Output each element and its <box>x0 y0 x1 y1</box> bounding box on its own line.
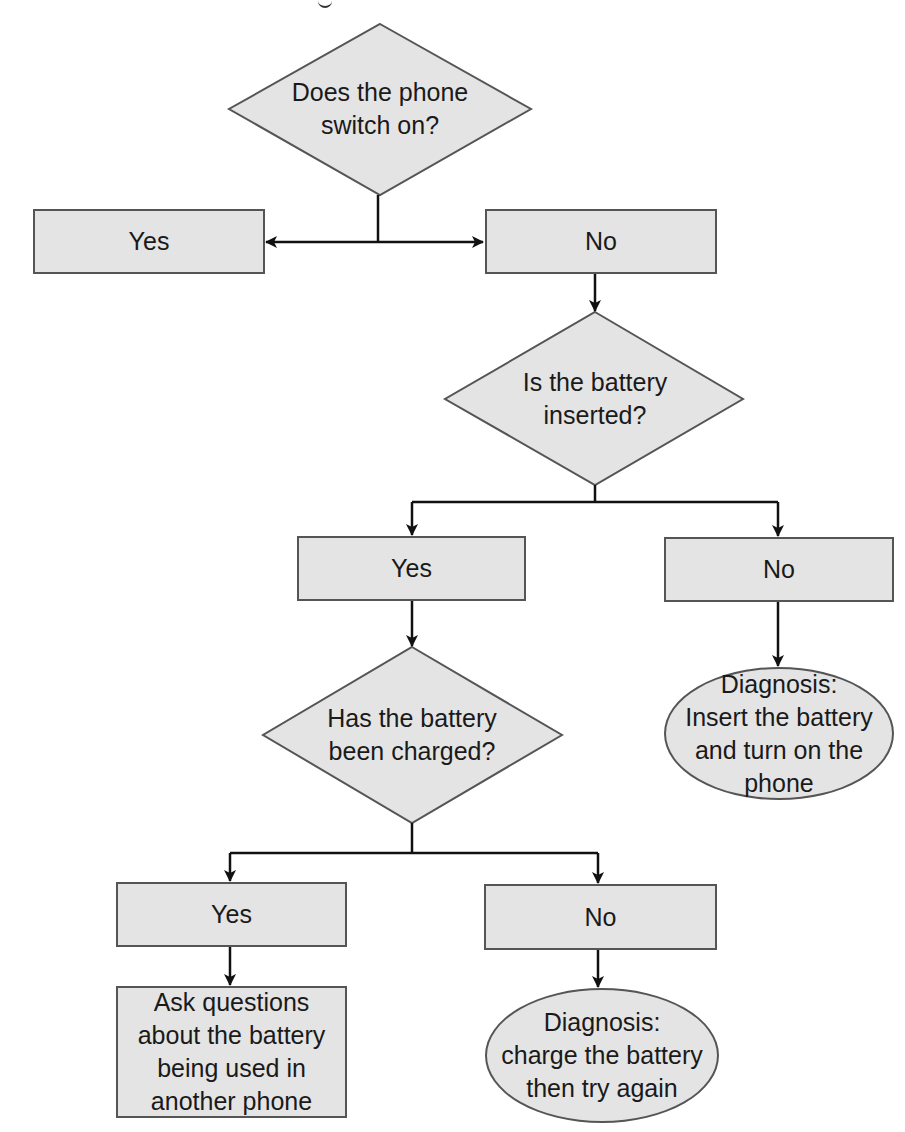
answer-label: Yes <box>211 898 252 931</box>
decision-label: Does the phone switch on? <box>292 76 469 142</box>
answer-q2-no: No <box>664 537 894 602</box>
diagnosis-insert-battery: Diagnosis: Insert the battery and turn o… <box>664 667 894 800</box>
decision-label: Is the battery inserted? <box>523 366 668 432</box>
diagnosis-label: Diagnosis: charge the battery then try a… <box>501 1006 703 1105</box>
diagnosis-label: Diagnosis: Insert the battery and turn o… <box>685 668 873 800</box>
action-label: Ask questions about the battery being us… <box>138 986 326 1118</box>
answer-label: Yes <box>129 225 170 258</box>
answer-label: Yes <box>391 552 432 585</box>
answer-q1-no: No <box>485 209 717 274</box>
answer-q3-no: No <box>484 884 717 950</box>
decision-battery-charged: Has the battery been charged? <box>287 686 537 784</box>
answer-label: No <box>763 553 795 586</box>
answer-q2-yes: Yes <box>297 536 526 601</box>
answer-label: No <box>585 225 617 258</box>
answer-q1-yes: Yes <box>33 209 265 274</box>
diagnosis-charge-battery: Diagnosis: charge the battery then try a… <box>485 988 719 1123</box>
answer-label: No <box>585 901 617 934</box>
decision-battery-inserted: Is the battery inserted? <box>470 350 720 448</box>
action-ask-questions: Ask questions about the battery being us… <box>116 986 347 1118</box>
decision-phone-switch-on: Does the phone switch on? <box>255 60 505 158</box>
decision-label: Has the battery been charged? <box>327 702 497 768</box>
answer-q3-yes: Yes <box>116 882 347 947</box>
